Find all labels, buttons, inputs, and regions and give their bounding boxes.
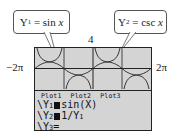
equation-y1[interactable]: \Y1sin(X) [35, 100, 151, 111]
xmin-label: −2π [6, 61, 23, 73]
calculator-screen: Plot1 Plot2 Plot3 \Y1sin(X) \Y21/Y1 \Y3= [34, 47, 152, 131]
equation-y3[interactable]: \Y3= [35, 122, 151, 133]
selected-marker[interactable] [54, 102, 60, 109]
plot3-toggle[interactable]: Plot3 [100, 92, 121, 100]
selected-marker[interactable] [54, 113, 60, 120]
equation-editor: Plot1 Plot2 Plot3 \Y1sin(X) \Y21/Y1 \Y3= [35, 90, 151, 131]
graph-area [35, 48, 151, 89]
ymax-label: 4 [88, 33, 94, 45]
xmax-label: 2π [156, 61, 167, 73]
